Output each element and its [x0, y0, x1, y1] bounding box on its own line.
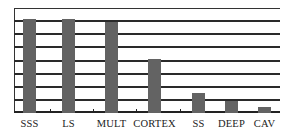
bar-mult [105, 22, 118, 113]
bar-ls [62, 19, 75, 114]
x-axis-tick [136, 109, 137, 113]
x-axis-tick [50, 109, 51, 113]
bar-cav [258, 107, 271, 113]
gridline [14, 73, 280, 75]
bar-deep [225, 101, 238, 113]
x-axis-tick [180, 109, 181, 113]
gridline [14, 20, 280, 22]
gridline [14, 46, 280, 48]
x-tick-label: CAV [240, 118, 289, 129]
gridline [14, 60, 280, 62]
x-tick-label: CORTEX [130, 118, 180, 129]
gridline [14, 33, 280, 35]
bar-cortex [148, 59, 161, 113]
plot-top-border [14, 8, 280, 9]
gridline [14, 99, 280, 101]
bar-chart: SSSLSMULTCORTEXSSDEEPCAV [0, 0, 288, 136]
bar-sss [23, 19, 36, 114]
bar-ss [192, 93, 205, 113]
plot-area [14, 8, 280, 113]
x-axis-tick [93, 109, 94, 113]
gridline [14, 86, 280, 88]
x-axis-line [14, 111, 280, 113]
